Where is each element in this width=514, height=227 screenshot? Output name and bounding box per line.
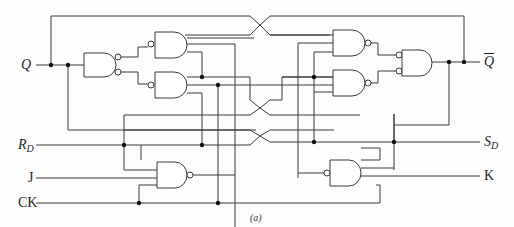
rd-subscript: D	[27, 143, 34, 154]
sd-input-label: SD	[484, 135, 498, 151]
j-input-label: J	[28, 171, 33, 185]
figure-caption: (a)	[250, 212, 262, 223]
circuit-diagram: Q Q RD J CK SD K (a)	[0, 0, 514, 227]
q-bar-output-label: Q	[484, 55, 494, 69]
sd-main: S	[484, 134, 491, 149]
circuit-schematic	[0, 0, 514, 227]
k-input-label: K	[484, 169, 494, 183]
ck-input-label: CK	[18, 196, 37, 210]
rd-main: R	[18, 137, 27, 152]
rd-input-label: RD	[18, 138, 34, 154]
q-output-label: Q	[21, 58, 31, 72]
sd-subscript: D	[491, 140, 498, 151]
